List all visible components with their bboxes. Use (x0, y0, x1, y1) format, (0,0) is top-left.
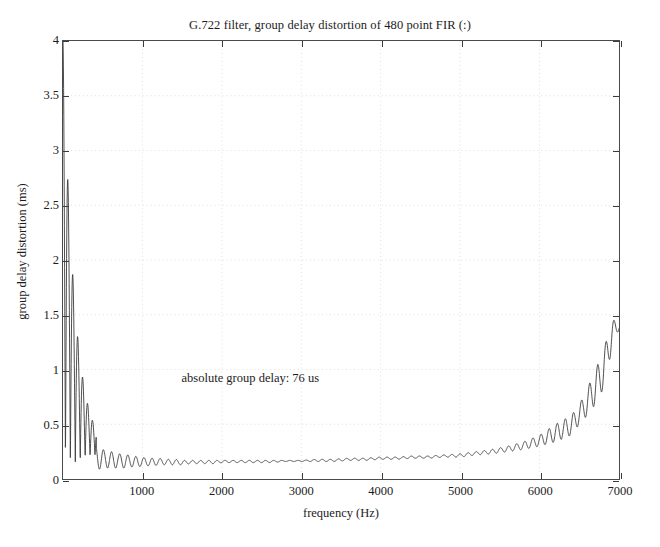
y-tick-mark-right (613, 96, 619, 97)
plot-area (62, 40, 620, 480)
x-tick-mark-top (621, 41, 622, 47)
x-tick-mark (302, 473, 303, 479)
y-tick-mark-right (613, 41, 619, 42)
x-tick-mark (621, 473, 622, 479)
y-tick-mark-right (613, 151, 619, 152)
chart-title: G.722 filter, group delay distortion of … (0, 18, 660, 33)
x-tick-mark-top (462, 41, 463, 47)
y-tick-mark (63, 151, 69, 152)
annotation-absolute-group-delay: absolute group delay: 76 us (182, 371, 319, 386)
y-tick-label: 3.5 (43, 88, 59, 103)
x-tick-label: 7000 (608, 484, 633, 499)
y-tick-mark (63, 41, 69, 42)
y-tick-mark-right (613, 261, 619, 262)
x-tick-label: 1000 (129, 484, 154, 499)
x-tick-label: 2000 (209, 484, 234, 499)
series-line-group-delay-distortion (63, 41, 619, 469)
x-tick-mark-top (222, 41, 223, 47)
y-tick-label: 1 (53, 363, 59, 378)
x-tick-label: 5000 (448, 484, 473, 499)
y-tick-mark (63, 316, 69, 317)
y-tick-mark (63, 371, 69, 372)
y-tick-mark (63, 261, 69, 262)
x-tick-mark-top (541, 41, 542, 47)
x-tick-mark (541, 473, 542, 479)
y-tick-mark-right (613, 316, 619, 317)
y-tick-label: 2.5 (43, 198, 59, 213)
gridlines (63, 41, 619, 479)
x-tick-mark (143, 473, 144, 479)
x-tick-mark (462, 473, 463, 479)
y-tick-mark (63, 481, 69, 482)
figure-canvas: G.722 filter, group delay distortion of … (0, 0, 660, 547)
x-tick-mark-top (302, 41, 303, 47)
y-tick-label: 0.5 (43, 418, 59, 433)
x-axis-tick-labels: 1000200030004000500060007000 (62, 484, 620, 504)
y-tick-mark (63, 206, 69, 207)
y-tick-mark-right (613, 481, 619, 482)
x-axis-label: frequency (Hz) (62, 506, 620, 521)
y-tick-label: 0 (53, 473, 59, 488)
y-axis-label: group delay distortion (ms) (15, 142, 30, 362)
data-curve-group (63, 41, 619, 479)
y-tick-mark-right (613, 371, 619, 372)
x-tick-mark (382, 473, 383, 479)
y-tick-label: 1.5 (43, 308, 59, 323)
x-tick-label: 4000 (368, 484, 393, 499)
x-tick-mark-top (382, 41, 383, 47)
y-tick-label: 2 (53, 253, 59, 268)
y-tick-mark-right (613, 426, 619, 427)
y-tick-label: 4 (53, 33, 59, 48)
x-tick-label: 6000 (528, 484, 553, 499)
y-tick-mark (63, 96, 69, 97)
y-tick-mark (63, 426, 69, 427)
x-tick-mark-top (143, 41, 144, 47)
y-tick-mark-right (613, 206, 619, 207)
x-tick-label: 3000 (289, 484, 314, 499)
x-tick-mark (222, 473, 223, 479)
y-tick-label: 3 (53, 143, 59, 158)
